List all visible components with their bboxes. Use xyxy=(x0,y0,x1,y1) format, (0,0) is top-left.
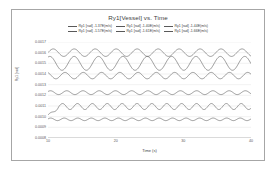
y-tick-label: 0.0012 xyxy=(35,93,46,97)
chart-container: Ry1[Vessel] vs. Time Ry1 [rad] -1.37E(m/… xyxy=(11,9,265,161)
legend-label-4: Ry1 [rad] -1.61E(m/s) xyxy=(127,29,160,33)
legend-line-swatch-icon xyxy=(164,31,173,32)
chart-legend: Ry1 [rad] -1.37E(m/s) Ry1 [rad] -1.40E(m… xyxy=(12,24,264,33)
x-tick-label: 30 xyxy=(181,139,185,143)
y-tick-label: 0.0010 xyxy=(35,115,46,119)
legend-line-swatch-icon xyxy=(164,26,173,27)
legend-item-4[interactable]: Ry1 [rad] -1.61E(m/s) xyxy=(116,29,160,33)
legend-item-1[interactable]: Ry1 [rad] -1.40E(m/s) xyxy=(116,24,160,28)
legend-line-swatch-icon xyxy=(116,31,125,32)
y-tick-label: 0.0009 xyxy=(35,125,46,129)
x-tick-label: 10 xyxy=(46,139,50,143)
legend-row-2: Ry1 [rad] -1.57E(m/s) Ry1 [rad] -1.61E(m… xyxy=(68,29,208,33)
legend-label-0: Ry1 [rad] -1.37E(m/s) xyxy=(79,24,112,28)
legend-item-3[interactable]: Ry1 [rad] -1.57E(m/s) xyxy=(68,29,112,33)
legend-label-2: Ry1 [rad] -1.44E(m/s) xyxy=(174,24,207,28)
legend-line-swatch-icon xyxy=(68,31,77,32)
series-line-5 xyxy=(48,118,251,121)
legend-line-swatch-icon xyxy=(68,26,77,27)
x-tick-label: 20 xyxy=(114,139,118,143)
x-tick-label: 40 xyxy=(249,139,253,143)
y-tick-label: 0.0014 xyxy=(35,72,46,76)
legend-label-3: Ry1 [rad] -1.57E(m/s) xyxy=(79,29,112,33)
y-tick-label: 0.0013 xyxy=(35,83,46,87)
plot-area xyxy=(48,42,251,138)
x-axis-title: Time (s) xyxy=(48,148,251,153)
y-tick-label: 0.0016 xyxy=(35,51,46,55)
legend-item-0[interactable]: Ry1 [rad] -1.37E(m/s) xyxy=(68,24,112,28)
series-line-2 xyxy=(48,72,251,78)
legend-item-2[interactable]: Ry1 [rad] -1.44E(m/s) xyxy=(164,24,208,28)
y-tick-label: 0.0011 xyxy=(35,104,46,108)
y-tick-label: 0.0015 xyxy=(35,61,46,65)
legend-label-5: Ry1 [rad] -1.66E(m/s) xyxy=(174,29,207,33)
y-axis-tick-labels: 0.00170.00160.00150.00140.00130.00120.00… xyxy=(12,42,46,138)
legend-line-swatch-icon xyxy=(116,26,125,27)
series-line-3 xyxy=(48,91,251,95)
x-axis-tick-labels: 10203040 xyxy=(48,139,251,147)
legend-item-5[interactable]: Ry1 [rad] -1.66E(m/s) xyxy=(164,29,208,33)
legend-label-1: Ry1 [rad] -1.40E(m/s) xyxy=(127,24,160,28)
series-line-4 xyxy=(48,104,251,115)
y-tick-label: 0.0017 xyxy=(35,40,46,44)
plot-svg xyxy=(48,42,251,138)
chart-title: Ry1[Vessel] vs. Time xyxy=(12,14,264,21)
y-tick-label: 0.0008 xyxy=(35,136,46,140)
legend-row-1: Ry1 [rad] -1.37E(m/s) Ry1 [rad] -1.40E(m… xyxy=(68,24,208,28)
